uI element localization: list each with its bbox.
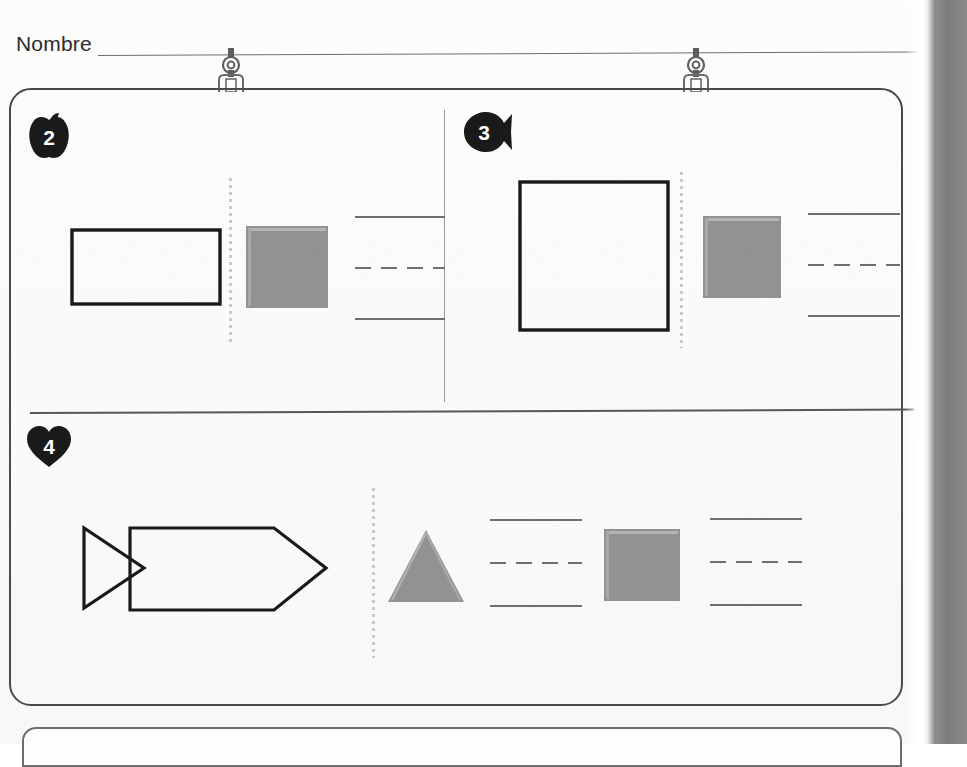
square-outline [518,180,670,332]
page-edge-shadow [923,0,967,744]
exercise-2-writing-lines[interactable] [355,216,445,320]
heart-badge-icon: 4 [26,425,72,469]
exercise-3-number: 3 [478,121,490,144]
writing-line-bottom [710,604,802,606]
writing-line-top [490,519,582,521]
writing-line-middle-dashed [490,562,582,564]
exercise-3-writing-lines[interactable] [808,213,900,317]
exercise-3-badge: 3 [461,110,505,154]
exercise-4-dotted-separator [372,488,375,658]
rectangle-outline [70,228,222,306]
exercise-4-number: 4 [43,435,55,458]
binder-ring-icon [214,48,248,92]
gray-triangle [388,530,464,602]
binder-clip-right [679,48,713,92]
writing-line-bottom [808,315,900,317]
writing-line-middle-dashed [710,561,802,563]
name-label: Nombre [16,32,92,56]
writing-line-bottom [355,318,445,320]
exercise-2-dotted-separator [229,178,232,344]
exercise-2-badge: 2 [26,113,70,157]
fish-outline [78,522,368,614]
name-header: Nombre [10,32,910,66]
exercise-4-writing-lines-square[interactable] [710,518,802,606]
gray-square [604,529,680,601]
exercise-4-writing-lines-triangle[interactable] [490,519,582,607]
writing-line-middle-dashed [808,264,900,266]
writing-line-top [808,213,900,215]
writing-line-top [710,518,802,520]
page-edge-highlight [905,0,925,744]
gray-square [246,226,328,308]
writing-line-top [355,216,445,218]
writing-line-bottom [490,605,582,607]
writing-line-middle-dashed [355,267,445,269]
exercise-2-number: 2 [43,126,55,149]
apple-badge-icon: 2 [26,113,72,161]
next-worksheet-panel [22,727,902,767]
binder-clip-left [214,48,248,92]
exercise-3-dotted-separator [680,172,683,348]
exercise-4-badge: 4 [26,425,70,469]
binder-ring-icon [679,48,713,92]
gray-square [703,216,781,298]
fish-badge-icon: 3 [461,110,513,154]
